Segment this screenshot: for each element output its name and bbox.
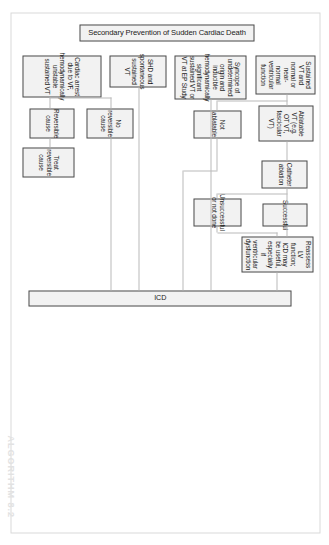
node-cardiac-arrest: Cardiac arrest due to VF, hemodynamicall…	[22, 55, 101, 97]
node-reassess-lv-function: Reassess LV function; ICD may be useful,…	[241, 236, 313, 272]
connector-catheter-to-successful	[286, 188, 287, 203]
connector-reassess-to-icd	[276, 272, 277, 290]
connector-vt-split-v	[217, 100, 287, 101]
connector-vt-to-not-ablatable	[216, 100, 217, 110]
node-ablatable-vt: Ablatable VT (e.g. OT VT, fascicular VT)	[258, 105, 313, 141]
node-not-ablatable: Not ablatable	[193, 110, 241, 138]
connector-not-ablatable-v	[183, 170, 217, 171]
connector-ablatable-to-catheter	[286, 141, 287, 160]
node-syncope: Syncope of undetermined origin and induc…	[174, 55, 246, 99]
connector-successful-stub	[286, 226, 287, 236]
node-icd: ICD	[28, 290, 291, 306]
connector-catheter-split-v	[217, 193, 287, 194]
node-treat-reversible-cause: Treat reversible cause	[22, 147, 74, 177]
node-catheter-ablation: Catheter ablation	[261, 160, 307, 188]
node-shd-sustained-vt: SHD and spontaneous sustained VT	[109, 55, 166, 87]
node-no-reversible-cause: No reversible cause	[86, 108, 133, 138]
node-successful: Successful	[262, 203, 307, 226]
connector-vt-to-ablatable	[286, 94, 287, 105]
connector-not-ablatable-to-icd	[182, 170, 183, 290]
node-sustained-vt-normal-function: Sustained VT and normal or near-normal v…	[255, 55, 315, 94]
connector-reversible-to-treat	[49, 138, 50, 147]
figure-caption: ALGORITHM 8.2	[5, 435, 15, 518]
connector-unsuccessful-to-reassess-v	[217, 232, 277, 233]
connector-into-reassess	[276, 232, 277, 236]
connector-shd-to-icd	[138, 87, 139, 290]
flowchart-title-box: Secondary Prevention of Sudden Cardiac D…	[79, 24, 254, 41]
connector-unsuccessful-to-reassess-h	[216, 226, 217, 232]
connector-not-ablatable-h1	[216, 138, 217, 170]
connector-syncope-to-icd	[210, 99, 211, 290]
connector-no-reversible-to-icd	[110, 138, 111, 290]
connector-cardiac-split-v	[49, 97, 111, 98]
flowchart-title: Secondary Prevention of Sudden Cardiac D…	[88, 28, 246, 37]
algorithm-flowchart: Secondary Prevention of Sudden Cardiac D…	[0, 0, 329, 545]
connector-catheter-to-unsuccessful	[216, 193, 217, 198]
connector-to-reversible	[49, 97, 50, 108]
node-unsuccessful-or-not-done: Unsuccessful or not done	[193, 198, 241, 226]
connector-to-no-reversible	[110, 97, 111, 108]
node-reversible-cause: Reversible cause	[29, 108, 74, 138]
